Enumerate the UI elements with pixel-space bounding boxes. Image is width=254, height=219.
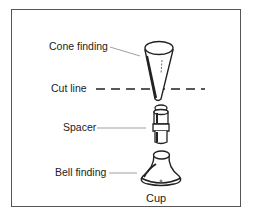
bell-finding-icon (141, 151, 181, 186)
spacer-icon (153, 105, 169, 144)
cone-finding-icon (145, 42, 173, 101)
leader-cone (110, 47, 140, 56)
diagram-drawing (0, 0, 254, 219)
